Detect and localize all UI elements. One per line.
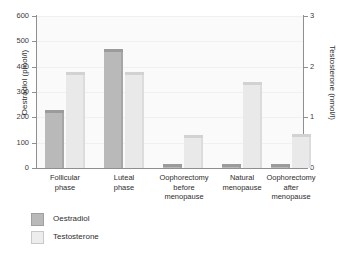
gridline [37,41,303,42]
y-tick-left [32,117,36,118]
bar-side [239,167,241,168]
bar-oestradiol-natural-menopause [222,164,241,168]
y-tick-left [32,67,36,68]
y-tick-left [32,92,36,93]
legend-swatch-oestradiol [31,213,44,226]
bar-testosterone-natural-menopause [243,82,262,168]
bar-oestradiol-follicular-phase [45,110,64,168]
y-tick-left [32,41,36,42]
y-tick-left [32,143,36,144]
gridline [37,16,303,17]
y-tick-right [304,67,308,68]
x-axis-category-label: Oophorectomy after menopause [258,173,324,202]
y-tick-label-left: 0 [3,164,29,172]
bar-testosterone-luteal-phase [125,72,144,168]
bar-side [180,167,182,168]
bar-testosterone-oophorectomy-before-menopause [184,135,203,168]
bar-oestradiol-oophorectomy-before-menopause [163,164,182,168]
bar-oestradiol-luteal-phase [104,49,123,168]
bar-testosterone-oophorectomy-after-menopause [292,134,311,168]
x-axis-category-label: Follicular phase [35,173,95,192]
bar-side [142,75,144,168]
y-tick-left [32,168,36,169]
y-tick-label-right: 0 [310,164,330,172]
bar-side [201,138,203,168]
chart-figure: 0 100 200 300 400 500 600 0 1 2 3 Oestra… [0,0,358,255]
y-tick-right [304,16,308,17]
y-tick-left [32,16,36,17]
bar-side [83,75,85,168]
y-axis-left-line [36,15,37,169]
x-axis-line [36,168,304,169]
y-tick-right [304,168,308,169]
bar-side [121,52,123,168]
legend-label-oestradiol: Oestradiol [53,214,89,224]
bar-side [288,167,290,168]
gridline [37,67,303,68]
y-tick-right [304,117,308,118]
y-axis-right-title: Testosterone (nmol/l) [328,18,337,148]
x-axis-category-label: Luteal phase [94,173,154,192]
bar-side [260,85,262,168]
legend-label-testosterone: Testosterone [53,232,99,242]
bar-side [309,137,311,168]
bar-testosterone-follicular-phase [66,72,85,168]
x-axis-category-label: Oophorectomy before menopause [151,173,217,202]
legend-swatch-testosterone [31,231,44,244]
bar-oestradiol-oophorectomy-after-menopause [271,164,290,168]
bar-side [62,113,64,168]
y-axis-left-title: Oestradiol (pmol/l) [20,18,29,148]
